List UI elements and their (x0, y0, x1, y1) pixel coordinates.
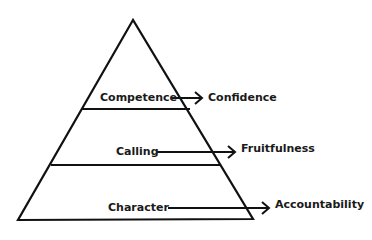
level-label-character: Character (108, 202, 169, 214)
arrow-character-accountability (168, 202, 269, 214)
outcome-label-fruitfulness: Fruitfulness (241, 143, 315, 155)
outcome-label-confidence: Confidence (208, 92, 277, 104)
pyramid-outline (18, 20, 253, 220)
outcome-label-accountability: Accountability (275, 199, 364, 211)
level-label-calling: Calling (116, 146, 159, 158)
level-label-competence: Competence (100, 92, 177, 104)
arrow-calling-fruitfulness (157, 146, 235, 158)
